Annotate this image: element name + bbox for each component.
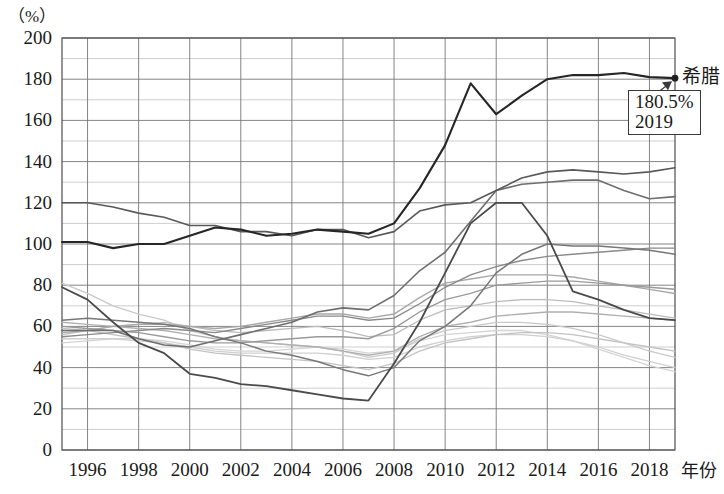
x-axis-title: 年份 — [681, 461, 717, 480]
callout-leader-arrowhead — [662, 81, 672, 90]
series-line-series-7 — [62, 281, 675, 343]
callout-annotation: 180.5% 2019 — [628, 90, 701, 135]
y-tick-label: 0 — [0, 440, 52, 459]
greece-end-marker-dot — [672, 75, 679, 82]
y-tick-label: 40 — [0, 358, 52, 377]
y-tick-label: 80 — [0, 275, 52, 294]
y-tick-label: 140 — [0, 152, 52, 171]
series-line-series-4 — [62, 203, 675, 401]
chart-container: （%） 020406080100120140160180200 19961998… — [0, 0, 724, 494]
series-line-希腊 — [62, 73, 675, 248]
y-tick-label: 100 — [0, 234, 52, 253]
series-label-greece: 希腊 — [682, 67, 720, 86]
series-line-series-3 — [62, 180, 675, 347]
chart-plot-area — [0, 0, 724, 494]
y-tick-label: 160 — [0, 110, 52, 129]
x-tick-label: 2018 — [619, 460, 679, 479]
y-tick-label: 180 — [0, 69, 52, 88]
y-tick-label: 20 — [0, 399, 52, 418]
y-tick-label: 200 — [0, 28, 52, 47]
callout-year: 2019 — [635, 112, 694, 132]
callout-value: 180.5% — [635, 92, 694, 112]
y-tick-label: 120 — [0, 193, 52, 212]
y-tick-label: 60 — [0, 316, 52, 335]
